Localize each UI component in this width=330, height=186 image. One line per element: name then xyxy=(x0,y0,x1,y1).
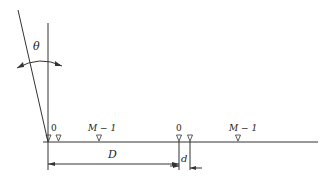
spacing-label: D xyxy=(107,148,117,161)
sensor-group-1: 0 M − 1 xyxy=(46,123,116,141)
sensor-icon xyxy=(56,135,61,141)
sensor-array-diagram: θ 0 M − 1 0 M − 1 D d xyxy=(0,0,330,186)
sensor-icon xyxy=(188,135,193,141)
offset-label: d xyxy=(181,153,187,164)
group1-last-label: M − 1 xyxy=(87,123,116,133)
theta-label: θ xyxy=(33,40,40,53)
group1-first-label: 0 xyxy=(51,123,57,133)
incidence-line xyxy=(18,10,48,142)
group2-last-label: M − 1 xyxy=(228,123,257,133)
arrowhead-left xyxy=(48,162,55,166)
arrowhead-offset-right xyxy=(190,166,196,170)
sensor-group-2: 0 M − 1 xyxy=(176,123,257,141)
sensor-icon xyxy=(97,135,102,141)
sensor-icon xyxy=(177,135,182,141)
sensor-icon xyxy=(236,135,241,141)
arc-arrowhead-left xyxy=(17,62,24,68)
group2-first-label: 0 xyxy=(176,123,182,133)
